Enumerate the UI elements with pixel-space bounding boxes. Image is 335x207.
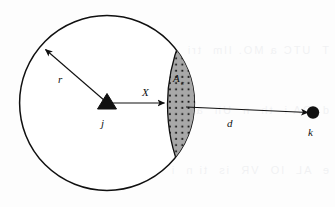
d-distance-arrow: [186, 107, 308, 113]
cap-area-label: A: [172, 72, 180, 84]
x-distance-label: X: [141, 86, 150, 98]
d-distance-label: d: [227, 117, 233, 129]
radius-label: r: [58, 73, 63, 85]
end-node-label: k: [308, 126, 314, 138]
geometry-diagram: r X d j k A e: [0, 0, 335, 207]
end-node-dot-icon: [307, 106, 319, 118]
cap-area-subscript: e: [181, 79, 184, 87]
figure-canvas: T UTC a MO. Ilm tri i S d DA i th n Uh a…: [0, 0, 335, 207]
